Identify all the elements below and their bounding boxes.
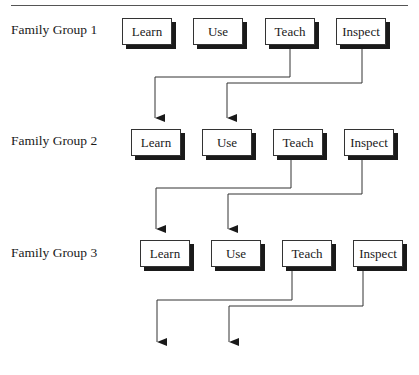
connector-arrows [0,0,419,375]
box-g1-teach: Teach [265,18,315,45]
connector-g1-inspect-to-g2-use [227,48,362,118]
box-g1-use: Use [193,18,243,45]
box-g3-teach: Teach [282,240,332,267]
box-g1-learn: Learn [122,18,172,45]
box-g3-use: Use [211,240,261,267]
box-g2-use: Use [202,129,252,156]
connector-g3-inspect-to-next [229,270,363,342]
box-g3-inspect: Inspect [353,240,403,267]
box-g2-teach: Teach [273,129,323,156]
group-label-3: Family Group 3 [11,245,97,261]
connector-g2-inspect-to-g3-use [228,159,362,229]
group-label-1: Family Group 1 [11,22,97,38]
box-g3-learn: Learn [140,240,190,267]
group-label-2: Family Group 2 [11,133,97,149]
box-g2-learn: Learn [131,129,181,156]
box-g1-inspect: Inspect [336,18,386,45]
box-g2-inspect: Inspect [344,129,394,156]
